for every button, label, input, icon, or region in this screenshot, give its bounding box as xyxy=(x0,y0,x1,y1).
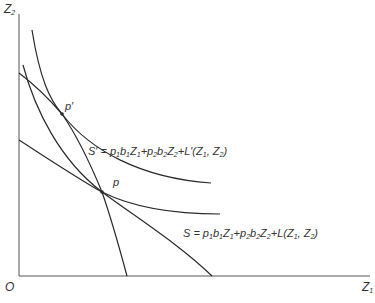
x-axis-label: Z1 xyxy=(362,280,373,294)
y-axis-label: Z2 xyxy=(4,2,15,16)
diagram: Z2 O Z1 p′ p S′ = p1b1Z1+p2b2Z2+L′(Z1, Z… xyxy=(0,0,375,303)
s-prime-equation: S′ = p1b1Z1+p2b2Z2+L′(Z1, Z2) xyxy=(88,145,227,158)
point-p xyxy=(100,190,104,194)
s-equation: S = p1b1Z1+p2b2Z2+L(Z1, Z2) xyxy=(183,227,318,240)
upper-indifference-curve xyxy=(32,30,211,183)
s-curve xyxy=(23,65,212,276)
point-p-prime xyxy=(60,112,64,116)
point-p-label: p xyxy=(113,176,119,188)
point-p-prime-label: p′ xyxy=(65,100,73,112)
origin-label: O xyxy=(5,280,14,294)
